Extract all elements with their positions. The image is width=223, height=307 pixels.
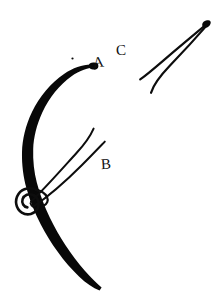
curved-needle-body (22, 63, 102, 291)
line-drawing-figure: A C B (0, 0, 223, 307)
ink-speck (71, 57, 73, 59)
straight-needle-holder (30, 129, 104, 207)
label-a: A (92, 54, 105, 70)
label-c: C (116, 43, 127, 59)
figure-canvas (0, 0, 223, 307)
detached-needle (140, 20, 211, 93)
label-b: B (100, 157, 111, 173)
